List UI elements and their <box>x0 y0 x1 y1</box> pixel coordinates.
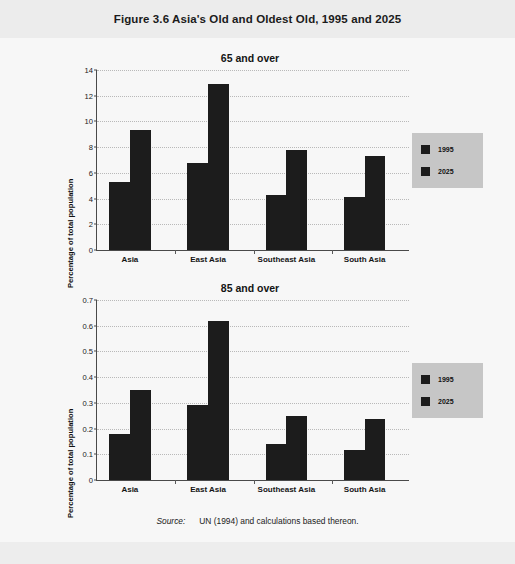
gridline <box>97 300 409 301</box>
y-axis-label: Percentage of total population <box>66 179 75 288</box>
x-axis <box>96 480 409 481</box>
x-tick-mark <box>254 480 255 484</box>
legend-swatch-icon <box>421 397 430 406</box>
chart-subtitle: 65 and over <box>95 52 405 64</box>
y-tick-label: 12 <box>85 91 93 100</box>
y-tick-label: 6 <box>89 168 93 177</box>
legend-swatch-icon <box>421 145 430 154</box>
legend-label: 1995 <box>438 376 454 383</box>
y-tick-label: 0 <box>89 476 93 485</box>
bar-1995-east-asia <box>187 163 208 250</box>
y-tick-label: 10 <box>85 117 93 126</box>
bar-2025-south-asia <box>365 419 386 480</box>
bar-2025-southeast-asia <box>286 150 307 250</box>
x-category-label: East Asia <box>190 255 226 264</box>
y-tick-label: 0.3 <box>82 398 93 407</box>
y-tick-label: 0.6 <box>82 321 93 330</box>
gridline <box>97 351 409 352</box>
chart-65-and-over: 65 and over Percentage of total populati… <box>0 52 515 282</box>
y-tick-label: 14 <box>85 66 93 75</box>
y-tick-label: 0.2 <box>82 424 93 433</box>
bar-1995-asia <box>109 182 130 250</box>
legend-item: 1995 <box>421 372 473 387</box>
y-tick-label: 0.5 <box>82 347 93 356</box>
gridline <box>97 70 409 71</box>
x-category-label: Southeast Asia <box>258 255 316 264</box>
x-tick-mark <box>332 250 333 254</box>
source-line: Source:UN (1994) and calculations based … <box>0 516 515 526</box>
y-tick-mark <box>94 428 97 429</box>
y-tick-mark <box>94 351 97 352</box>
source-keyword: Source: <box>156 516 185 526</box>
legend-label: 2025 <box>438 398 454 405</box>
bar-1995-south-asia <box>344 197 365 250</box>
bar-2025-asia <box>130 390 151 480</box>
y-tick-label: 0.7 <box>82 296 93 305</box>
bar-2025-east-asia <box>208 84 229 251</box>
bar-1995-asia <box>109 434 130 480</box>
x-tick-mark <box>175 480 176 484</box>
x-category-label: Southeast Asia <box>258 485 316 494</box>
x-tick-mark <box>332 480 333 484</box>
plot-area: 00.10.20.30.40.50.60.7AsiaEast AsiaSouth… <box>96 300 409 480</box>
y-tick-mark <box>94 300 97 301</box>
legend-item: 1995 <box>421 142 473 157</box>
x-category-label: South Asia <box>344 485 385 494</box>
y-tick-label: 0.1 <box>82 450 93 459</box>
figure-page: Figure 3.6 Asia's Old and Oldest Old, 19… <box>0 0 515 564</box>
bar-2025-asia <box>130 130 151 250</box>
legend-swatch-icon <box>421 375 430 384</box>
y-tick-mark <box>94 95 97 96</box>
chart-legend: 19952025 <box>412 133 483 188</box>
y-tick-label: 4 <box>89 194 93 203</box>
x-category-label: South Asia <box>344 255 385 264</box>
y-tick-mark <box>94 480 97 481</box>
y-tick-mark <box>94 224 97 225</box>
gridline <box>97 121 409 122</box>
bar-1995-south-asia <box>344 450 365 480</box>
y-tick-mark <box>94 325 97 326</box>
x-category-label: Asia <box>121 255 138 264</box>
y-tick-mark <box>94 454 97 455</box>
chart-subtitle: 85 and over <box>95 282 405 294</box>
bar-2025-south-asia <box>365 156 386 251</box>
bar-1995-southeast-asia <box>266 195 287 250</box>
bar-2025-east-asia <box>208 321 229 480</box>
chart-85-and-over: 85 and over Percentage of total populati… <box>0 282 515 517</box>
y-tick-label: 0.4 <box>82 373 93 382</box>
legend-label: 2025 <box>438 168 454 175</box>
y-tick-label: 8 <box>89 143 93 152</box>
y-tick-label: 0 <box>89 246 93 255</box>
y-tick-mark <box>94 250 97 251</box>
source-text: UN (1994) and calculations based thereon… <box>199 516 358 526</box>
legend-swatch-icon <box>421 167 430 176</box>
bar-1995-southeast-asia <box>266 444 287 480</box>
x-category-label: Asia <box>121 485 138 494</box>
legend-label: 1995 <box>438 146 454 153</box>
figure-title: Figure 3.6 Asia's Old and Oldest Old, 19… <box>0 13 515 25</box>
gridline <box>97 377 409 378</box>
gridline <box>97 326 409 327</box>
x-tick-mark <box>254 250 255 254</box>
bar-2025-southeast-asia <box>286 416 307 480</box>
y-axis-label: Percentage of total population <box>66 409 75 518</box>
y-tick-mark <box>94 172 97 173</box>
bar-1995-east-asia <box>187 405 208 480</box>
plot-area: 02468101214AsiaEast AsiaSoutheast AsiaSo… <box>96 70 409 250</box>
x-category-label: East Asia <box>190 485 226 494</box>
y-tick-mark <box>94 147 97 148</box>
y-tick-mark <box>94 198 97 199</box>
chart-legend: 19952025 <box>412 363 483 418</box>
gridline <box>97 96 409 97</box>
y-tick-label: 2 <box>89 220 93 229</box>
x-tick-mark <box>175 250 176 254</box>
y-tick-mark <box>94 377 97 378</box>
y-tick-mark <box>94 121 97 122</box>
x-axis <box>96 250 409 251</box>
y-tick-mark <box>94 402 97 403</box>
legend-item: 2025 <box>421 394 473 409</box>
y-tick-mark <box>94 70 97 71</box>
legend-item: 2025 <box>421 164 473 179</box>
footer-band <box>0 542 515 564</box>
